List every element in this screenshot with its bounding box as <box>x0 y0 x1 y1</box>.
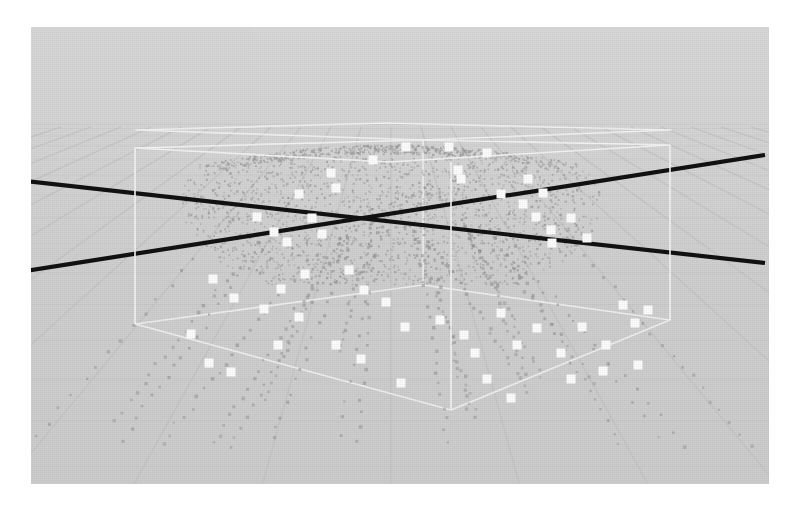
particle-point <box>454 243 456 245</box>
particle-marker[interactable] <box>583 234 592 243</box>
particle-marker[interactable] <box>301 270 310 279</box>
particle-point <box>262 273 264 275</box>
trail-point <box>433 248 436 251</box>
particle-marker[interactable] <box>205 359 214 368</box>
particle-marker[interactable] <box>360 286 369 295</box>
particle-marker[interactable] <box>599 367 608 376</box>
render-canvas[interactable] <box>31 27 769 484</box>
scene-svg[interactable] <box>31 27 769 484</box>
trail-point <box>121 412 124 415</box>
particle-marker[interactable] <box>209 275 218 284</box>
trail-point <box>526 282 530 286</box>
particle-marker[interactable] <box>548 239 557 248</box>
particle-point <box>311 150 313 152</box>
trail-point <box>205 327 208 330</box>
particle-point <box>255 244 257 246</box>
particle-point <box>476 277 478 279</box>
particle-marker[interactable] <box>230 294 239 303</box>
particle-marker[interactable] <box>631 319 640 328</box>
particle-marker[interactable] <box>454 166 463 175</box>
particle-point <box>280 227 282 229</box>
particle-point <box>562 223 564 225</box>
particle-marker[interactable] <box>497 309 506 318</box>
particle-marker[interactable] <box>295 313 304 322</box>
particle-point <box>378 148 380 150</box>
particle-point <box>228 254 230 256</box>
particle-point <box>439 199 441 201</box>
particle-point <box>325 269 327 271</box>
particle-marker[interactable] <box>644 306 653 315</box>
particle-marker[interactable] <box>513 341 522 350</box>
particle-marker[interactable] <box>619 301 628 310</box>
particle-marker[interactable] <box>327 169 336 178</box>
particle-marker[interactable] <box>532 213 541 222</box>
trail-point <box>507 307 511 311</box>
particle-marker[interactable] <box>283 238 292 247</box>
particle-point <box>429 197 431 199</box>
particle-marker[interactable] <box>445 143 454 152</box>
particle-marker[interactable] <box>332 341 341 350</box>
trail-point <box>183 416 186 419</box>
particle-marker[interactable] <box>260 305 269 314</box>
particle-point <box>314 266 316 268</box>
particle-marker[interactable] <box>397 379 406 388</box>
particle-marker[interactable] <box>277 285 286 294</box>
particle-point <box>562 237 564 239</box>
particle-marker[interactable] <box>634 361 643 370</box>
particle-marker[interactable] <box>357 355 366 364</box>
particle-marker[interactable] <box>345 266 354 275</box>
particle-point <box>462 198 464 200</box>
trail-point <box>647 402 650 405</box>
particle-marker[interactable] <box>227 368 236 377</box>
particle-marker[interactable] <box>533 324 542 333</box>
particle-point <box>344 198 346 200</box>
particle-marker[interactable] <box>507 394 516 403</box>
particle-marker[interactable] <box>457 175 466 184</box>
particle-point <box>507 201 509 203</box>
particle-point <box>566 246 568 248</box>
particle-point <box>406 260 408 262</box>
trail-point <box>463 288 466 291</box>
particle-marker[interactable] <box>524 175 533 184</box>
particle-marker[interactable] <box>557 349 566 358</box>
trail-point <box>566 345 568 347</box>
particle-marker[interactable] <box>497 190 506 199</box>
trail-point <box>468 403 471 406</box>
particle-marker[interactable] <box>318 230 327 239</box>
particle-point <box>457 188 459 190</box>
particle-marker[interactable] <box>519 200 528 209</box>
particle-point <box>348 206 350 208</box>
particle-marker[interactable] <box>567 375 576 384</box>
particle-marker[interactable] <box>539 189 548 198</box>
particle-point <box>502 168 504 170</box>
particle-point <box>382 193 384 195</box>
trail-point <box>718 409 720 411</box>
particle-point <box>324 197 326 199</box>
particle-marker[interactable] <box>253 213 262 222</box>
particle-marker[interactable] <box>602 341 611 350</box>
particle-marker[interactable] <box>567 214 576 223</box>
particle-marker[interactable] <box>483 375 492 384</box>
particle-marker[interactable] <box>187 330 196 339</box>
particle-marker[interactable] <box>471 349 480 358</box>
particle-marker[interactable] <box>332 184 341 193</box>
particle-point <box>314 166 316 168</box>
particle-marker[interactable] <box>401 323 410 332</box>
particle-point <box>522 171 524 173</box>
particle-marker[interactable] <box>270 228 279 237</box>
particle-marker[interactable] <box>308 214 317 223</box>
particle-marker[interactable] <box>274 341 283 350</box>
particle-marker[interactable] <box>382 298 391 307</box>
particle-marker[interactable] <box>402 143 411 152</box>
particle-marker[interactable] <box>547 226 556 235</box>
particle-marker[interactable] <box>460 331 469 340</box>
particle-marker[interactable] <box>369 156 378 165</box>
particle-marker[interactable] <box>578 323 587 332</box>
trail-point <box>246 416 250 420</box>
trail-point <box>380 238 383 241</box>
particle-marker[interactable] <box>483 149 492 158</box>
trail-point <box>284 327 287 330</box>
particle-marker[interactable] <box>436 316 445 325</box>
particle-point <box>488 165 490 167</box>
particle-marker[interactable] <box>295 190 304 199</box>
